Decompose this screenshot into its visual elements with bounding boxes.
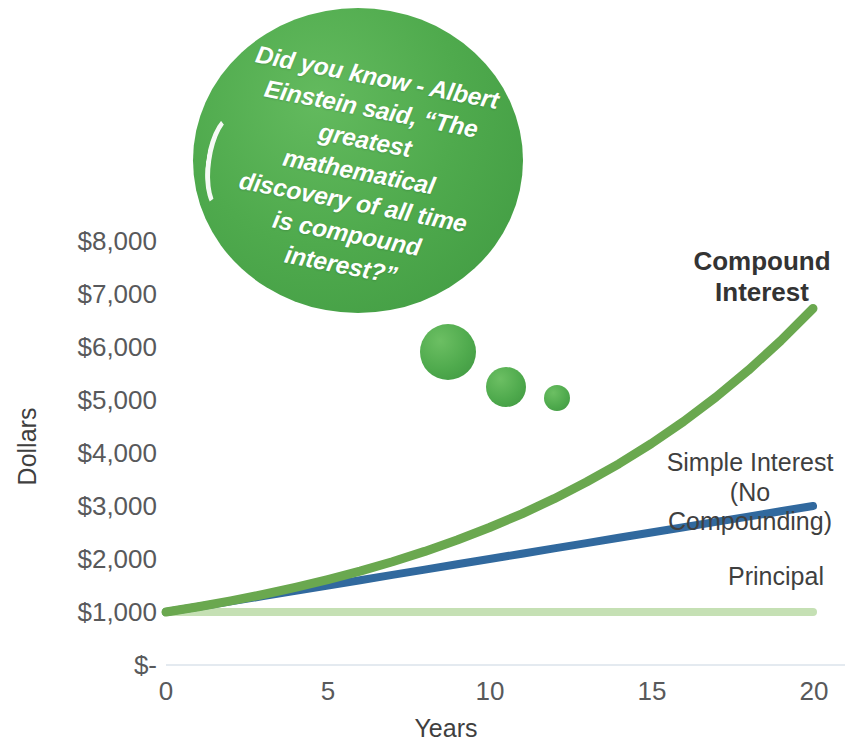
compound-interest-chart: $8,000 $7,000 $6,000 $5,000 $4,000 $3,00… xyxy=(0,0,852,750)
y-tick-5000: $5,000 xyxy=(27,385,157,416)
series-label-simple-interest: Simple Interest (No Compounding) xyxy=(648,448,852,537)
einstein-quote-bubble: Did you know - Albert Einstein said, “Th… xyxy=(193,8,523,313)
y-axis-title: Dollars xyxy=(13,392,42,502)
y-tick-8000: $8,000 xyxy=(27,226,157,257)
series-label-compound-interest: Compound Interest xyxy=(672,246,852,307)
x-tick-10: 10 xyxy=(450,676,530,707)
x-tick-0: 0 xyxy=(126,676,206,707)
x-tick-5: 5 xyxy=(288,676,368,707)
x-tick-15: 15 xyxy=(612,676,692,707)
y-tick-4000: $4,000 xyxy=(27,438,157,469)
y-axis-tick-labels: $8,000 $7,000 $6,000 $5,000 $4,000 $3,00… xyxy=(12,0,157,750)
y-tick-3000: $3,000 xyxy=(27,491,157,522)
y-tick-7000: $7,000 xyxy=(27,279,157,310)
bubble-tail-dot-medium xyxy=(486,367,526,407)
y-tick-2000: $2,000 xyxy=(27,544,157,575)
x-axis-title: Years xyxy=(366,714,526,743)
y-tick-6000: $6,000 xyxy=(27,332,157,363)
bubble-tail-dot-large xyxy=(420,324,476,380)
y-tick-1000: $1,000 xyxy=(27,597,157,628)
bubble-quote-text: Did you know - Albert Einstein said, “Th… xyxy=(216,38,502,304)
bubble-tail-dot-small xyxy=(544,385,570,411)
series-label-principal: Principal xyxy=(700,562,852,592)
x-tick-20: 20 xyxy=(774,676,852,707)
